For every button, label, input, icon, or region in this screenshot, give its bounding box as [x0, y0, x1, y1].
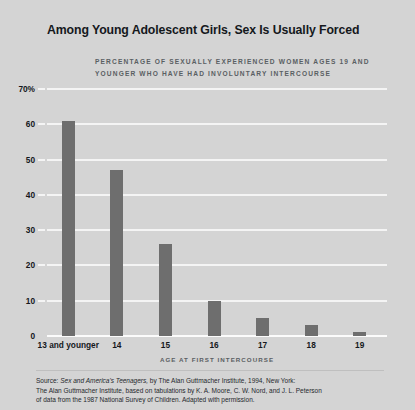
gridline-50: [47, 159, 387, 161]
source-line-3: of data from the 1987 National Survey of…: [36, 395, 386, 405]
x-axis-label: 19: [300, 341, 415, 350]
bar: [159, 244, 172, 336]
y-tick-20: [38, 264, 45, 266]
gridline-20: [47, 264, 387, 266]
y-tick-70: [38, 88, 45, 90]
bar: [208, 301, 221, 336]
gridline-30: [47, 229, 387, 231]
source-divider: [36, 370, 384, 371]
y-axis-label: 40: [0, 191, 35, 199]
source-publication-title: Sex and America's Teenagers,: [60, 377, 148, 384]
source-note: Source: Sex and America's Teenagers, by …: [36, 376, 386, 405]
source-line-1-rest: by The Alan Guttmacher Institute, 1994, …: [148, 377, 295, 384]
y-axis-label: 10: [0, 297, 35, 305]
y-tick-30: [38, 229, 45, 231]
bar: [256, 318, 269, 336]
bar: [305, 325, 318, 336]
source-line-2: The Alan Guttmacher Institute, based on …: [36, 386, 386, 396]
y-axis-label: 60: [0, 120, 35, 128]
source-label: Source:: [36, 377, 58, 384]
bar: [110, 170, 123, 336]
x-axis-title: AGE AT FIRST INTERCOURSE: [47, 356, 387, 363]
chart-figure: Among Young Adolescent Girls, Sex Is Usu…: [0, 0, 415, 410]
y-axis-label: 50: [0, 156, 35, 164]
gridline-60: [47, 123, 387, 125]
bar: [353, 332, 366, 336]
chart-title: Among Young Adolescent Girls, Sex Is Usu…: [47, 23, 387, 37]
y-tick-50: [38, 159, 45, 161]
y-axis-label: 30: [0, 226, 35, 234]
plot-area: 010203040506070%: [47, 89, 387, 336]
y-axis-label: 70%: [0, 85, 35, 93]
y-axis-label: 20: [0, 261, 35, 269]
y-axis-label: 0: [0, 332, 35, 340]
gridline-70: [47, 88, 387, 90]
y-tick-10: [38, 300, 45, 302]
y-tick-40: [38, 194, 45, 196]
y-tick-60: [38, 123, 45, 125]
source-line-1: Source: Sex and America's Teenagers, by …: [36, 376, 386, 386]
bar: [62, 121, 75, 336]
gridline-40: [47, 194, 387, 196]
chart-subtitle: PERCENTAGE OF SEXUALLY EXPERIENCED WOMEN…: [95, 56, 385, 79]
